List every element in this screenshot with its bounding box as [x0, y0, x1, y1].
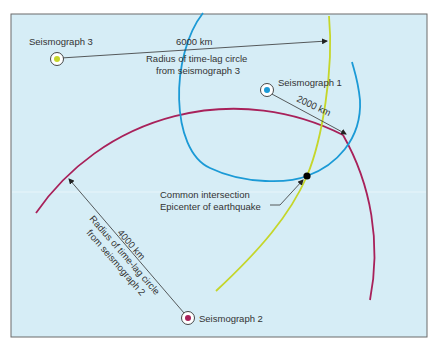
seismograph-2-marker	[185, 315, 191, 321]
seismograph-2-label: Seismograph 2	[199, 313, 263, 324]
seismograph-1-label: Seismograph 1	[278, 77, 342, 88]
epicenter-marker	[303, 172, 310, 179]
seismograph-1-marker	[264, 87, 270, 93]
seismograph-3-radius-label-2: from seismograph 3	[156, 65, 240, 76]
seismograph-3-distance: 6000 km	[176, 36, 213, 47]
epicenter-label-1: Common intersection	[160, 189, 250, 200]
seismograph-3-label: Seismograph 3	[29, 36, 93, 47]
earthquake-epicenter-diagram: Seismograph 3 6000 km Radius of time-lag…	[0, 0, 438, 352]
seismograph-3-radius-label-1: Radius of time-lag circle	[146, 53, 247, 64]
epicenter-label-2: Epicenter of earthquake	[160, 201, 261, 212]
seismograph-3-marker	[54, 56, 60, 62]
